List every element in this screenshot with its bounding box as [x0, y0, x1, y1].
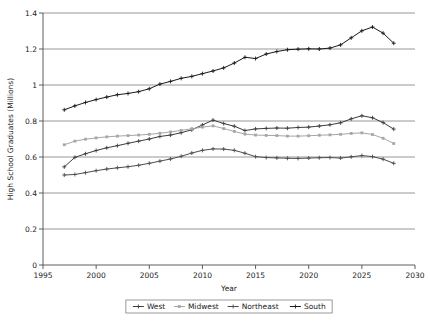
x-tick-label: 2015: [246, 271, 265, 280]
plot-area: [43, 13, 415, 265]
y-tick-label: 0.6: [25, 153, 37, 162]
x-tick-label: 1995: [33, 271, 52, 280]
data-point: [212, 124, 215, 127]
y-tick-label: 1.2: [25, 45, 37, 54]
line-chart: 00.20.40.60.811.21.419952000200520102015…: [0, 0, 430, 322]
data-point: [84, 138, 87, 141]
data-point: [105, 135, 108, 138]
data-point: [180, 129, 183, 132]
data-point: [233, 130, 236, 133]
data-point: [371, 133, 374, 136]
data-point: [201, 126, 204, 129]
data-point: [116, 135, 119, 138]
data-point: [350, 132, 353, 135]
x-axis-title: Year: [220, 284, 238, 293]
data-point: [307, 134, 310, 137]
x-tick-label: 2000: [87, 271, 106, 280]
x-tick-label: 2020: [299, 271, 318, 280]
data-point: [159, 132, 162, 135]
data-point: [178, 305, 181, 308]
data-point: [63, 143, 66, 146]
data-point: [254, 134, 257, 137]
data-point: [265, 134, 268, 137]
y-tick-label: 0.2: [25, 225, 37, 234]
y-tick-label: 1: [32, 81, 37, 90]
data-point: [318, 134, 321, 137]
legend-label: South: [304, 302, 326, 311]
legend-label: Midwest: [188, 302, 219, 311]
legend-label: Northeast: [242, 302, 279, 311]
data-point: [297, 135, 300, 138]
data-point: [275, 134, 278, 137]
data-point: [95, 137, 98, 140]
y-axis-title: High School Graduates (Millions): [6, 78, 15, 200]
x-tick-label: 2025: [352, 271, 371, 280]
data-point: [329, 133, 332, 136]
data-point: [339, 133, 342, 136]
y-tick-label: 0.8: [25, 117, 37, 126]
data-point: [148, 133, 151, 136]
y-tick-label: 1.4: [25, 9, 37, 18]
data-point: [392, 142, 395, 145]
y-tick-label: 0.4: [25, 189, 37, 198]
x-tick-label: 2005: [140, 271, 159, 280]
data-point: [382, 137, 385, 140]
y-tick-label: 0: [32, 261, 37, 270]
x-tick-label: 2010: [193, 271, 212, 280]
data-point: [286, 135, 289, 138]
data-point: [137, 134, 140, 137]
data-point: [73, 140, 76, 143]
data-point: [169, 131, 172, 134]
chart-container: 00.20.40.60.811.21.419952000200520102015…: [0, 0, 430, 322]
legend-label: West: [147, 302, 165, 311]
data-point: [190, 127, 193, 130]
data-point: [360, 131, 363, 134]
data-point: [244, 133, 247, 136]
data-point: [127, 134, 130, 137]
data-point: [222, 127, 225, 130]
x-tick-label: 2030: [405, 271, 424, 280]
